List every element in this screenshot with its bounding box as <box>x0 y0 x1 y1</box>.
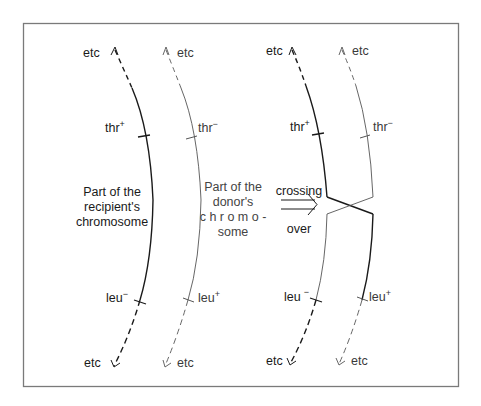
donor-bottom-etc: etc <box>177 356 194 370</box>
donor-caption-line2: donor's <box>213 195 254 209</box>
crossing-over-diagram: etc thr+ leu− etc Part of the recipient'… <box>0 0 481 406</box>
recombinant-recipient-thr-label: thr+ <box>290 118 310 134</box>
thr-marker-tick <box>360 135 370 138</box>
arrow-down-icon <box>287 358 296 365</box>
recipient-leu-label: leu− <box>106 289 128 305</box>
recipient-caption-line3: chromosome <box>76 215 148 229</box>
donor-chromosome-left <box>163 47 201 367</box>
recombinant-donor-bottom-etc: etc <box>351 354 368 368</box>
thr-marker-tick <box>312 133 324 135</box>
thr-marker-tick <box>138 135 150 137</box>
arrow-down-icon <box>111 360 120 367</box>
recipient-caption-line1: Part of the <box>83 185 141 199</box>
recombinant-donor-top-etc: etc <box>352 44 369 58</box>
recombinant-donor-thr-label: thr− <box>373 118 393 134</box>
donor-caption-line4: some <box>218 225 249 239</box>
recipient-chromosome-right <box>287 47 373 365</box>
recipient-caption-line2: recipient's <box>84 200 140 214</box>
donor-caption-line1: Part of the <box>204 180 262 194</box>
recombinant-recipient-top-etc: etc <box>266 44 283 58</box>
donor-caption-line3: c h r o m o - <box>200 210 267 224</box>
recipient-bottom-etc: etc <box>84 356 101 370</box>
over-label: over <box>287 222 311 236</box>
recipient-thr-label: thr+ <box>105 119 125 135</box>
donor-top-etc: etc <box>177 46 194 60</box>
crossing-label: crossing <box>276 184 323 198</box>
recombinant-recipient-leu-label: leu− <box>284 287 309 304</box>
thr-marker-tick <box>186 136 197 139</box>
recipient-top-etc: etc <box>83 46 100 60</box>
recombinant-recipient-bottom-etc: etc <box>266 354 283 368</box>
donor-leu-label: leu+ <box>198 289 220 305</box>
recombinant-donor-leu-label: leu+ <box>369 288 391 304</box>
donor-thr-label: thr− <box>198 119 218 135</box>
